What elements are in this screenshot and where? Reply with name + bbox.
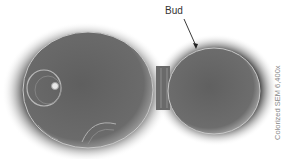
bud-cell [168, 48, 260, 134]
yeast-cell-illustration [0, 0, 296, 159]
magnification-caption: Colorized SEM 6,400x [273, 65, 282, 140]
sem-micrograph: Bud Colorized SEM 6,400x [0, 0, 296, 159]
bud-label: Bud [165, 5, 183, 16]
birth-scar [52, 83, 59, 90]
